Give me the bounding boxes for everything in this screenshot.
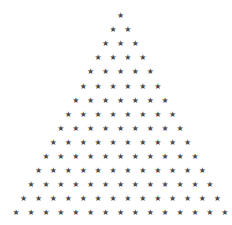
star-icon: ★ (130, 96, 140, 106)
star-icon: ★ (183, 166, 193, 176)
star-icon: ★ (175, 208, 185, 218)
star-icon: ★ (11, 208, 21, 218)
star-icon: ★ (108, 53, 118, 63)
star-icon: ★ (86, 208, 96, 218)
star-icon: ★ (116, 124, 126, 134)
star-icon: ★ (108, 110, 118, 120)
star-icon: ★ (116, 152, 126, 162)
star-icon: ★ (160, 208, 170, 218)
star-icon: ★ (138, 166, 148, 176)
star-icon: ★ (101, 67, 111, 77)
star-icon: ★ (130, 124, 140, 134)
star-icon: ★ (138, 194, 148, 204)
star-icon: ★ (138, 110, 148, 120)
star-icon: ★ (116, 39, 126, 49)
star-icon: ★ (71, 124, 81, 134)
star-icon: ★ (19, 194, 29, 204)
star-icon: ★ (71, 152, 81, 162)
star-icon: ★ (153, 194, 163, 204)
star-icon: ★ (116, 67, 126, 77)
star-icon: ★ (108, 25, 118, 35)
star-icon: ★ (168, 166, 178, 176)
star-icon: ★ (63, 166, 73, 176)
star-icon: ★ (108, 138, 118, 148)
star-icon: ★ (48, 194, 58, 204)
star-icon: ★ (63, 138, 73, 148)
star-icon: ★ (101, 39, 111, 49)
star-icon: ★ (130, 39, 140, 49)
star-icon: ★ (168, 138, 178, 148)
star-icon: ★ (138, 82, 148, 92)
star-icon: ★ (56, 152, 66, 162)
star-icon: ★ (78, 110, 88, 120)
star-icon: ★ (93, 53, 103, 63)
star-icon: ★ (123, 166, 133, 176)
star-icon: ★ (175, 180, 185, 190)
star-icon: ★ (86, 67, 96, 77)
star-icon: ★ (145, 180, 155, 190)
star-icon: ★ (116, 11, 126, 21)
star-icon: ★ (153, 82, 163, 92)
star-icon: ★ (183, 194, 193, 204)
star-icon: ★ (168, 110, 178, 120)
star-icon: ★ (123, 138, 133, 148)
star-icon: ★ (108, 194, 118, 204)
star-icon: ★ (63, 194, 73, 204)
star-icon: ★ (41, 208, 51, 218)
star-icon: ★ (116, 96, 126, 106)
star-icon: ★ (48, 166, 58, 176)
star-triangle: ★★★★★★★★★★★★★★★★★★★★★★★★★★★★★★★★★★★★★★★★… (0, 0, 232, 225)
star-icon: ★ (56, 124, 66, 134)
star-icon: ★ (130, 180, 140, 190)
star-icon: ★ (78, 82, 88, 92)
star-icon: ★ (108, 166, 118, 176)
star-icon: ★ (41, 152, 51, 162)
star-icon: ★ (160, 96, 170, 106)
star-icon: ★ (175, 124, 185, 134)
star-icon: ★ (34, 166, 44, 176)
star-icon: ★ (123, 25, 133, 35)
star-icon: ★ (160, 152, 170, 162)
star-icon: ★ (86, 180, 96, 190)
star-icon: ★ (123, 194, 133, 204)
star-icon: ★ (108, 82, 118, 92)
star-icon: ★ (160, 124, 170, 134)
star-icon: ★ (153, 166, 163, 176)
star-icon: ★ (197, 166, 207, 176)
star-icon: ★ (197, 194, 207, 204)
star-icon: ★ (101, 180, 111, 190)
star-icon: ★ (190, 180, 200, 190)
star-icon: ★ (116, 208, 126, 218)
star-icon: ★ (145, 208, 155, 218)
star-icon: ★ (145, 152, 155, 162)
star-icon: ★ (190, 152, 200, 162)
star-icon: ★ (26, 208, 36, 218)
star-icon: ★ (205, 180, 215, 190)
star-icon: ★ (34, 194, 44, 204)
star-icon: ★ (26, 180, 36, 190)
star-icon: ★ (160, 180, 170, 190)
star-icon: ★ (168, 194, 178, 204)
star-icon: ★ (86, 124, 96, 134)
star-icon: ★ (145, 96, 155, 106)
star-icon: ★ (93, 166, 103, 176)
star-icon: ★ (175, 152, 185, 162)
star-icon: ★ (93, 82, 103, 92)
star-icon: ★ (71, 208, 81, 218)
star-icon: ★ (130, 208, 140, 218)
star-icon: ★ (93, 110, 103, 120)
star-icon: ★ (205, 208, 215, 218)
star-icon: ★ (145, 124, 155, 134)
star-icon: ★ (183, 138, 193, 148)
star-icon: ★ (190, 208, 200, 218)
star-icon: ★ (78, 166, 88, 176)
star-icon: ★ (101, 208, 111, 218)
star-icon: ★ (123, 110, 133, 120)
star-icon: ★ (220, 208, 230, 218)
star-icon: ★ (86, 96, 96, 106)
star-icon: ★ (123, 82, 133, 92)
star-icon: ★ (101, 96, 111, 106)
star-icon: ★ (212, 194, 222, 204)
star-icon: ★ (63, 110, 73, 120)
star-icon: ★ (145, 67, 155, 77)
